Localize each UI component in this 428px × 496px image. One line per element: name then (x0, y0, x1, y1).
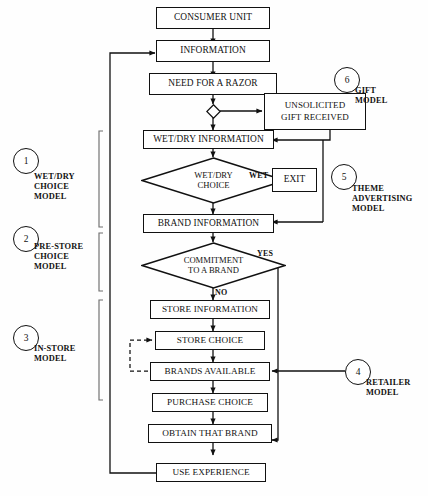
submodel-label-1: WET/DRY CHOICE MODEL (34, 172, 75, 202)
node-need-for-a-razor[interactable]: NEED FOR A RAZOR (149, 73, 277, 95)
branch-label-yes: YES (257, 249, 273, 258)
node-label: WET/DRYCHOICE (194, 171, 233, 189)
node-unsolicited-gift-received[interactable]: UNSOLICITEDGIFT RECEIVED (264, 93, 366, 130)
node-label: NEED FOR A RAZOR (166, 79, 259, 89)
node-label: OBTAIN THAT BRAND (160, 429, 260, 439)
node-label: CONSUMER UNIT (172, 13, 254, 23)
node-purchase-choice[interactable]: PURCHASE CHOICE (152, 393, 268, 412)
flowchart-diagram: CONSUMER UNIT INFORMATION NEED FOR A RAZ… (0, 0, 428, 496)
node-label: COMMITMENTTO A BRAND (184, 256, 244, 274)
node-label: INFORMATION (178, 46, 248, 56)
node-information[interactable]: INFORMATION (156, 40, 270, 62)
node-wet-dry-information[interactable]: WET/DRY INFORMATION (143, 130, 274, 149)
submodel-label-5: THEME ADVERTISING MODEL (352, 184, 412, 214)
submodel-label-4: RETAILER MODEL (366, 378, 410, 398)
submodel-label-2: PRE-STORE CHOICE MODEL (34, 242, 83, 272)
node-label: STORE CHOICE (175, 336, 246, 346)
node-label: PURCHASE CHOICE (165, 398, 255, 408)
node-use-experience[interactable]: USE EXPERIENCE (156, 463, 266, 482)
group-brackets (99, 131, 103, 400)
branch-label-wet: WET (249, 171, 268, 180)
submodel-marker-1[interactable]: 1 (13, 148, 39, 174)
node-brands-available[interactable]: BRANDS AVAILABLE (150, 362, 270, 381)
small-diamond-icon (206, 104, 221, 119)
node-store-choice[interactable]: STORE CHOICE (155, 331, 265, 350)
node-wet-dry-choice[interactable]: WET/DRYCHOICE (141, 157, 286, 204)
node-store-information[interactable]: STORE INFORMATION (150, 300, 270, 319)
branch-label-no: NO (215, 288, 227, 297)
submodel-label-3: IN-STORE MODEL (34, 344, 76, 364)
node-obtain-that-brand[interactable]: OBTAIN THAT BRAND (148, 424, 272, 443)
node-brand-information[interactable]: BRAND INFORMATION (143, 214, 274, 233)
node-exit[interactable]: EXIT (272, 168, 317, 192)
submodel-label-6: GIFT MODEL (355, 86, 387, 106)
node-label: BRAND INFORMATION (156, 219, 261, 229)
node-label: STORE INFORMATION (160, 305, 260, 315)
node-label: USE EXPERIENCE (170, 468, 251, 478)
node-label: EXIT (282, 175, 308, 185)
node-label: BRANDS AVAILABLE (163, 367, 258, 377)
node-label: WET/DRY INFORMATION (151, 135, 266, 145)
node-gift-junction[interactable] (206, 104, 221, 119)
node-consumer-unit[interactable]: CONSUMER UNIT (156, 7, 270, 29)
node-label: UNSOLICITEDGIFT RECEIVED (277, 100, 353, 123)
